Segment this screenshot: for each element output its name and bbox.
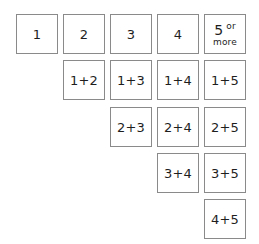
cell-label: 1 — [33, 27, 41, 42]
cell-label-sub: more — [213, 38, 237, 47]
cell-label: 4+5 — [211, 212, 239, 227]
cell-3-plus-5: 3+5 — [204, 153, 246, 193]
cell-2: 2 — [63, 14, 105, 54]
cell-label: 2+3 — [117, 120, 145, 135]
cell-3: 3 — [110, 14, 152, 54]
cell-label-superscript: or — [226, 22, 236, 31]
cell-2-plus-5: 2+5 — [204, 107, 246, 147]
cell-label: 1+5 — [211, 73, 239, 88]
cell-1-plus-2: 1+2 — [63, 60, 105, 100]
cell-1-plus-3: 1+3 — [110, 60, 152, 100]
cell-label: 4 — [174, 27, 182, 42]
cell-label: 3+4 — [164, 166, 192, 181]
cell-label: 3+5 — [211, 166, 239, 181]
cell-1: 1 — [16, 14, 58, 54]
cell-5-or-more: 5 or more — [204, 14, 246, 54]
cell-label: 1+2 — [70, 73, 98, 88]
cell-2-plus-3: 2+3 — [110, 107, 152, 147]
cell-4-plus-5: 4+5 — [204, 199, 246, 239]
cell-label: 2+4 — [164, 120, 192, 135]
cell-4: 4 — [157, 14, 199, 54]
cell-3-plus-4: 3+4 — [157, 153, 199, 193]
cell-label: 1+3 — [117, 73, 145, 88]
cell-label: 2 — [80, 27, 88, 42]
cell-1-plus-4: 1+4 — [157, 60, 199, 100]
combination-diagram: 1 2 3 4 5 or more 1+2 1+3 1+4 1+5 2+3 2+… — [0, 0, 259, 244]
cell-2-plus-4: 2+4 — [157, 107, 199, 147]
cell-label: 3 — [127, 27, 135, 42]
cell-label: 1+4 — [164, 73, 192, 88]
cell-label-number: 5 — [214, 23, 223, 37]
cell-1-plus-5: 1+5 — [204, 60, 246, 100]
cell-label: 2+5 — [211, 120, 239, 135]
cell-label-top: 5 or — [214, 23, 236, 37]
